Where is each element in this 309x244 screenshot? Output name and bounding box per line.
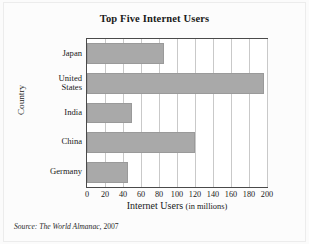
x-axis-title-units: (in millions) bbox=[186, 202, 228, 211]
chart-figure: Top Five Internet Users Country JapanUni… bbox=[0, 0, 309, 244]
bar-band bbox=[87, 73, 267, 94]
bar-band bbox=[87, 103, 267, 124]
x-axis-tick-label: 200 bbox=[261, 190, 273, 199]
y-axis-tick-label: India bbox=[12, 108, 82, 117]
plot-area bbox=[86, 38, 268, 188]
y-axis-tick-label-line: India bbox=[12, 108, 82, 117]
x-axis-tick-label: 60 bbox=[137, 190, 145, 199]
source-prefix: Source: bbox=[14, 222, 37, 231]
bar-band bbox=[87, 132, 267, 153]
y-axis-tick-labels: JapanUnitedStatesIndiaChinaGermany bbox=[10, 38, 82, 188]
y-axis-tick-label: Japan bbox=[12, 49, 82, 58]
x-axis-title: Internet Users (in millions) bbox=[86, 200, 268, 211]
bar[interactable] bbox=[87, 73, 264, 94]
y-axis-tick-label: Germany bbox=[12, 167, 82, 176]
y-axis-tick-label-line: Germany bbox=[12, 167, 82, 176]
bar[interactable] bbox=[87, 43, 164, 64]
x-axis-tick-label: 140 bbox=[207, 190, 219, 199]
bar[interactable] bbox=[87, 103, 132, 124]
x-axis-tick-label: 80 bbox=[155, 190, 163, 199]
x-axis-tick-label: 0 bbox=[85, 190, 89, 199]
x-axis-tick-label: 100 bbox=[171, 190, 183, 199]
y-axis-tick-label-line: Japan bbox=[12, 49, 82, 58]
source-year: 2007 bbox=[103, 222, 118, 231]
source-publication: The World Almanac bbox=[39, 222, 99, 231]
bar-band bbox=[87, 162, 267, 183]
plot-inner bbox=[87, 39, 267, 187]
x-axis-tick-label: 160 bbox=[225, 190, 237, 199]
chart-title: Top Five Internet Users bbox=[0, 13, 309, 24]
gridline bbox=[267, 39, 268, 187]
source-note: Source: The World Almanac, 2007 bbox=[14, 222, 119, 231]
source-separator: , bbox=[100, 222, 102, 231]
bar[interactable] bbox=[87, 162, 128, 183]
bar-band bbox=[87, 43, 267, 64]
y-axis-tick-label: China bbox=[12, 137, 82, 146]
x-axis-title-main: Internet Users bbox=[127, 200, 183, 211]
bar[interactable] bbox=[87, 132, 195, 153]
y-axis-tick-label: UnitedStates bbox=[12, 74, 82, 93]
y-axis-tick-label-line: States bbox=[12, 83, 82, 92]
x-axis-tick-label: 20 bbox=[101, 190, 109, 199]
x-axis-tick-label: 40 bbox=[119, 190, 127, 199]
x-axis-tick-label: 120 bbox=[189, 190, 201, 199]
x-axis-tick-label: 180 bbox=[243, 190, 255, 199]
y-axis-tick-label-line: China bbox=[12, 137, 82, 146]
